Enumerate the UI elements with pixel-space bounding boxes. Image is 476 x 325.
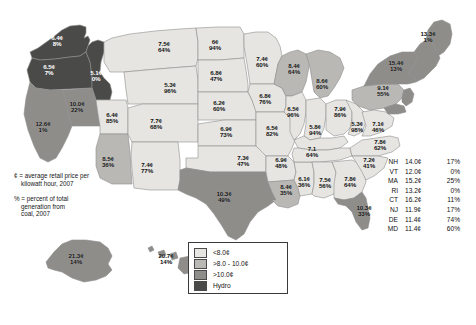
state-label-LA: 8.4¢35%: [280, 184, 292, 197]
state-shape-SD[interactable]: [198, 58, 248, 92]
state-table: NH14.0¢17%VT12.0¢0%MA15.2¢25%RI13.2¢0%CT…: [378, 158, 460, 235]
legend-label-light: <8.0¢: [213, 249, 230, 256]
state-pct-HI: 14%: [159, 259, 174, 265]
note-percent-line2: generation from: [14, 203, 142, 211]
state-label-WY: 5.3¢96%: [164, 82, 176, 95]
legend-item-light[interactable]: <8.0¢: [194, 247, 282, 258]
state-pct-OK: 47%: [237, 161, 249, 167]
state-pct-RI: 0%: [438, 187, 460, 197]
legend-item-dark[interactable]: >10.0¢: [194, 269, 282, 280]
state-label-ND: 6¢94%: [209, 39, 221, 52]
state-label-VA: 7.1¢46%: [372, 121, 384, 134]
state-shape-MT[interactable]: [104, 28, 198, 72]
state-label-TN: 7.164%: [306, 146, 318, 159]
state-label-MO: 6.5¢82%: [266, 125, 278, 138]
state-shape-WY[interactable]: [124, 66, 198, 104]
state-label-OH: 7.9¢86%: [334, 106, 346, 119]
state-pct-KS: 73%: [220, 132, 232, 138]
legend-item-medium[interactable]: >8.0 - 10.0¢: [194, 258, 282, 269]
state-label-GA: 7.8¢64%: [344, 176, 356, 189]
state-shape-MI[interactable]: [306, 50, 344, 98]
state-shape-CO[interactable]: [128, 104, 198, 142]
state-shape-TX[interactable]: [178, 168, 276, 240]
state-pct-SC: 41%: [363, 163, 375, 169]
state-label-CA: 12.6¢1%: [36, 121, 51, 134]
state-abbr-NH: NH: [378, 158, 405, 168]
state-label-SD: 6.8¢47%: [210, 70, 222, 83]
state-price-MA: 15.2¢: [405, 177, 438, 187]
state-pct-AL: 56%: [319, 183, 331, 189]
state-label-ID: 5.1¢0%: [90, 70, 102, 83]
table-row[interactable]: MD11.4¢60%: [378, 225, 460, 235]
state-pct-MI: 60%: [316, 84, 328, 90]
state-label-NY: 15.4¢13%: [389, 60, 404, 73]
state-label-NE: 6.2¢60%: [213, 100, 225, 113]
state-label-MS: 6.1¢36%: [298, 176, 310, 189]
state-price-MD: 11.4¢: [405, 225, 438, 235]
state-label-PA: 9.1¢55%: [377, 85, 389, 98]
state-pct-MO: 82%: [266, 131, 278, 137]
us-electricity-map: 6.4¢8%6.5¢7%5.1¢0%12.6¢1%10.0¢22%6.4¢85%…: [0, 0, 476, 325]
northeast-state-table: NH14.0¢17%VT12.0¢0%MA15.2¢25%RI13.2¢0%CT…: [378, 158, 460, 235]
legend-label-medium: >8.0 - 10.0¢: [213, 260, 248, 267]
map-legend: <8.0¢>8.0 - 10.0¢>10.0¢Hydro: [188, 242, 288, 294]
note-percent-line3: coal, 2007: [14, 210, 142, 218]
state-price-DE: 11.4¢: [405, 216, 438, 226]
state-pct-IL: 96%: [287, 112, 299, 118]
state-label-WV: 5.3¢98%: [351, 121, 363, 134]
state-label-AR: 6.9¢48%: [275, 157, 287, 170]
state-shape-TN[interactable]: [292, 148, 352, 162]
state-abbr-RI: RI: [378, 187, 405, 197]
state-label-WI: 8.4¢64%: [288, 63, 300, 76]
note-cents-line2: kilowatt hour, 2007: [14, 180, 142, 188]
table-row[interactable]: DE11.4¢74%: [378, 216, 460, 226]
state-abbr-VT: VT: [378, 168, 405, 178]
state-label-KS: 6.9¢73%: [220, 126, 232, 139]
state-pct-WY: 96%: [164, 88, 176, 94]
table-row[interactable]: VT12.0¢0%: [378, 168, 460, 178]
state-pct-WA: 8%: [51, 41, 63, 47]
state-abbr-CT: CT: [378, 196, 405, 206]
state-pct-WV: 98%: [351, 127, 363, 133]
state-pct-TN: 64%: [306, 152, 318, 158]
state-shape-NE[interactable]: [198, 92, 256, 120]
state-pct-AK: 14%: [69, 259, 84, 265]
state-shape-NJ[interactable]: [402, 88, 414, 106]
table-row[interactable]: RI13.2¢0%: [378, 187, 460, 197]
state-pct-WI: 64%: [288, 69, 300, 75]
legend-swatch-light: [194, 248, 207, 258]
state-label-FL: 10.3¢33%: [357, 205, 372, 218]
state-price-CT: 16.2¢: [405, 196, 438, 206]
note-percent: % = percent of total generation from coa…: [14, 195, 142, 219]
legend-swatch-medium: [194, 259, 207, 269]
state-label-NM: 7.4¢77%: [141, 162, 153, 175]
state-pct-AR: 48%: [275, 163, 287, 169]
state-pct-FL: 33%: [357, 211, 372, 217]
state-pct-VA: 46%: [372, 127, 384, 133]
table-row[interactable]: NH14.0¢17%: [378, 158, 460, 168]
state-price-VT: 12.0¢: [405, 168, 438, 178]
state-pct-TX: 49%: [217, 197, 232, 203]
legend-label-dark: >10.0¢: [213, 271, 233, 278]
state-abbr-DE: DE: [378, 216, 405, 226]
state-pct-MS: 36%: [298, 182, 310, 188]
state-pct-ND: 94%: [209, 45, 221, 51]
state-pct-OH: 86%: [334, 112, 346, 118]
state-pct-MD: 60%: [438, 225, 460, 235]
state-pct-GA: 64%: [344, 182, 356, 188]
state-pct-AZ: 36%: [102, 162, 114, 168]
table-row[interactable]: MA15.2¢25%: [378, 177, 460, 187]
state-pct-NH: 17%: [438, 158, 460, 168]
state-pct-SD: 47%: [210, 76, 222, 82]
table-row[interactable]: CT16.2¢11%: [378, 196, 460, 206]
state-pct-MT: 64%: [158, 47, 170, 53]
state-shape-OK[interactable]: [186, 146, 266, 172]
legend-swatch-dark: [194, 270, 207, 280]
table-row[interactable]: NJ11.9¢17%: [378, 206, 460, 216]
legend-item-hydro[interactable]: Hydro: [194, 280, 282, 291]
state-pct-ID: 0%: [90, 76, 102, 82]
state-abbr-MD: MD: [378, 225, 405, 235]
state-pct-UT: 85%: [106, 118, 118, 124]
state-price-NH: 14.0¢: [405, 158, 438, 168]
state-pct-ME: 1%: [421, 37, 436, 43]
